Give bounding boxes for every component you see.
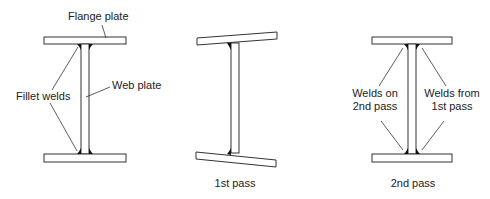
second-pass-caption: 2nd pass [383,177,443,190]
label-line: 2nd pass [345,100,405,113]
first-pass-welds [227,43,231,155]
bottom-flange-plate [44,154,126,162]
welds-on-2nd-pass-label: Welds on 2nd pass [345,87,405,113]
web-plate [408,44,416,154]
top-flange-plate [372,37,452,44]
label-line: 1st pass [421,100,483,113]
flange-plate-label: Flange plate [68,10,129,23]
fillet-welds-label: Fillet welds [16,90,70,103]
bottom-flange-plate [196,152,276,167]
figure-first-pass [196,32,277,167]
bottom-flange-plate [372,154,452,162]
i-beam-welding-diagram [0,0,490,199]
web-plate [81,44,89,154]
label-line: Welds from [421,87,483,100]
welds-from-1st-pass-label: Welds from 1st pass [421,87,483,113]
web-plate-label: Web plate [112,79,161,92]
top-flange-plate [44,37,126,44]
web-plate [231,43,239,153]
first-pass-caption: 1st pass [210,177,260,190]
label-line: Welds on [345,87,405,100]
